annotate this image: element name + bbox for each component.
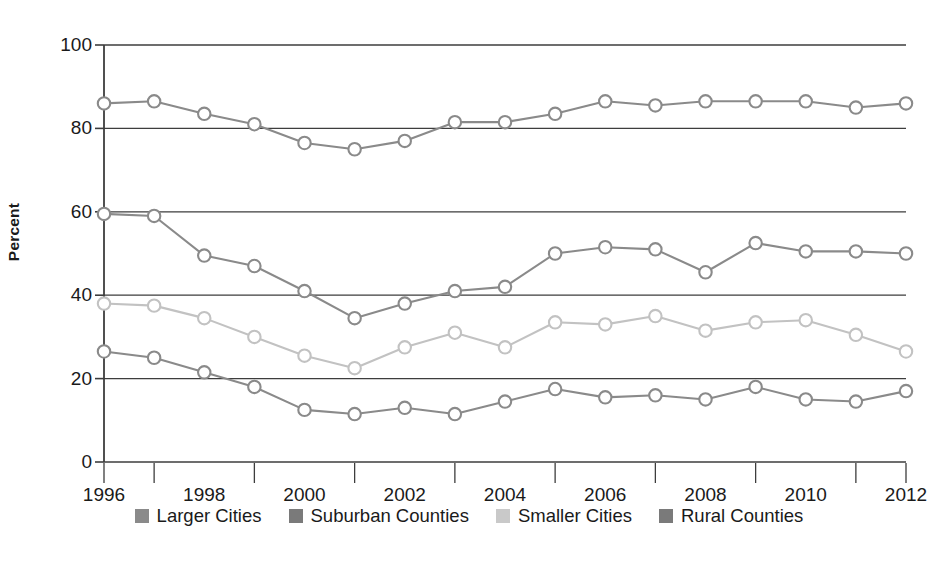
- data-point: [248, 381, 260, 393]
- legend-item-label: Smaller Cities: [518, 505, 632, 527]
- legend-item-smaller-cities[interactable]: Smaller Cities: [496, 505, 632, 527]
- data-point: [248, 331, 260, 343]
- data-point: [499, 395, 511, 407]
- x-tick-label-2004: 2004: [484, 484, 526, 506]
- data-point: [649, 243, 661, 255]
- data-point: [98, 208, 110, 220]
- data-point: [449, 285, 461, 297]
- data-point: [348, 312, 360, 324]
- data-point: [649, 310, 661, 322]
- series-smaller-cities: [98, 297, 912, 374]
- legend-item-label: Larger Cities: [157, 505, 262, 527]
- data-point: [549, 316, 561, 328]
- data-point: [298, 137, 310, 149]
- data-point: [850, 395, 862, 407]
- data-point: [850, 329, 862, 341]
- line-chart: Percent 020406080100 1996199820002002200…: [0, 0, 938, 562]
- legend-item-label: Rural Counties: [681, 505, 803, 527]
- data-point: [449, 116, 461, 128]
- data-point: [98, 297, 110, 309]
- data-point: [649, 389, 661, 401]
- legend-item-label: Suburban Counties: [311, 505, 469, 527]
- data-point: [850, 245, 862, 257]
- data-point: [699, 266, 711, 278]
- data-point: [599, 95, 611, 107]
- plot-area: [0, 0, 938, 562]
- data-point: [499, 116, 511, 128]
- data-point: [649, 99, 661, 111]
- data-point: [148, 210, 160, 222]
- data-point: [749, 381, 761, 393]
- legend-swatch-icon: [496, 509, 510, 523]
- data-point: [248, 260, 260, 272]
- data-point: [599, 318, 611, 330]
- data-point: [348, 408, 360, 420]
- data-point: [298, 349, 310, 361]
- data-point: [549, 108, 561, 120]
- data-point: [198, 312, 210, 324]
- y-tick-label-100: 100: [40, 34, 92, 56]
- data-point: [399, 297, 411, 309]
- data-point: [749, 237, 761, 249]
- data-point: [148, 95, 160, 107]
- data-point: [248, 118, 260, 130]
- data-point: [499, 281, 511, 293]
- y-tick-label-80: 80: [40, 117, 92, 139]
- y-tick-label-20: 20: [40, 368, 92, 390]
- data-point: [699, 393, 711, 405]
- legend-swatch-icon: [135, 509, 149, 523]
- data-point: [399, 135, 411, 147]
- data-point: [399, 402, 411, 414]
- data-point: [549, 383, 561, 395]
- data-point: [599, 241, 611, 253]
- x-tick-label-2010: 2010: [785, 484, 827, 506]
- data-point: [699, 95, 711, 107]
- series-larger-cities: [98, 95, 912, 155]
- data-point: [198, 108, 210, 120]
- data-point: [699, 324, 711, 336]
- legend-item-rural-counties[interactable]: Rural Counties: [659, 505, 803, 527]
- data-point: [800, 245, 812, 257]
- x-tick-label-1996: 1996: [83, 484, 125, 506]
- data-point: [749, 316, 761, 328]
- data-point: [348, 143, 360, 155]
- x-tick-label-2008: 2008: [684, 484, 726, 506]
- chart-legend: Larger CitiesSuburban CountiesSmaller Ci…: [0, 505, 938, 527]
- series-line: [104, 214, 906, 318]
- data-point: [900, 97, 912, 109]
- data-point: [749, 95, 761, 107]
- data-point: [800, 393, 812, 405]
- series-rural-counties: [98, 345, 912, 420]
- data-point: [549, 247, 561, 259]
- x-tick-label-2002: 2002: [384, 484, 426, 506]
- x-tick-label-2012: 2012: [885, 484, 927, 506]
- data-point: [348, 362, 360, 374]
- data-point: [298, 285, 310, 297]
- x-tick-label-2000: 2000: [283, 484, 325, 506]
- data-point: [148, 352, 160, 364]
- y-tick-label-60: 60: [40, 201, 92, 223]
- data-point: [449, 327, 461, 339]
- data-point: [900, 247, 912, 259]
- legend-item-suburban-counties[interactable]: Suburban Counties: [289, 505, 469, 527]
- data-point: [800, 314, 812, 326]
- data-point: [198, 366, 210, 378]
- data-point: [148, 299, 160, 311]
- legend-swatch-icon: [659, 509, 673, 523]
- data-point: [850, 101, 862, 113]
- data-point: [900, 345, 912, 357]
- data-point: [499, 341, 511, 353]
- y-axis-title: Percent: [5, 203, 23, 261]
- y-tick-label-40: 40: [40, 284, 92, 306]
- data-point: [98, 345, 110, 357]
- y-tick-label-0: 0: [40, 451, 92, 473]
- data-point: [198, 249, 210, 261]
- data-point: [449, 408, 461, 420]
- data-point: [800, 95, 812, 107]
- legend-item-larger-cities[interactable]: Larger Cities: [135, 505, 262, 527]
- data-point: [399, 341, 411, 353]
- x-tick-label-1998: 1998: [183, 484, 225, 506]
- series-line: [104, 304, 906, 369]
- x-tick-label-2006: 2006: [584, 484, 626, 506]
- data-point: [98, 97, 110, 109]
